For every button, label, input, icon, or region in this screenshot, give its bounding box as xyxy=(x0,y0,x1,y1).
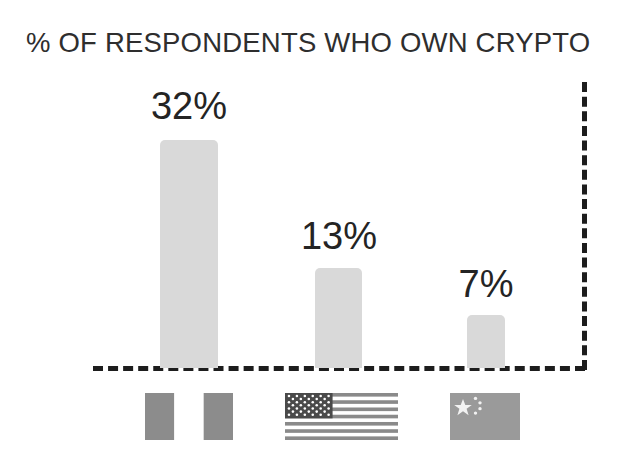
bar-value-label-china: 7% xyxy=(426,264,546,304)
nigeria-flag-icon xyxy=(145,393,233,440)
bar-value-label-nigeria: 32% xyxy=(129,86,249,126)
bar-value-label-united-states: 13% xyxy=(279,216,399,256)
crypto-ownership-bar-chart: % OF RESPONDENTS WHO OWN CRYPTO 32% 13% … xyxy=(0,0,638,460)
bar-nigeria xyxy=(160,140,218,368)
y-axis-dashed-line xyxy=(582,82,587,370)
united-states-flag-icon xyxy=(285,393,398,440)
bar-china xyxy=(467,315,505,368)
china-flag-icon xyxy=(450,393,520,440)
bar-united-states xyxy=(315,268,362,368)
plot-area: 32% 13% 7% xyxy=(0,0,638,380)
